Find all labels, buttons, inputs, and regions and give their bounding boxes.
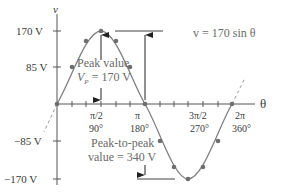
peak-value-number: = 170 V <box>89 70 131 84</box>
x-tick-270deg: 270° <box>190 123 209 134</box>
peak-value-title: Peak value <box>77 58 129 69</box>
y-tick-85: 85 V <box>26 62 48 73</box>
dashed-extension-right <box>232 78 245 104</box>
x-tick-pi-half: π/2 <box>90 110 103 121</box>
p2p-line2: value = 340 V <box>88 152 156 163</box>
y-tick-neg170: −170 V <box>4 174 37 185</box>
peak-value-formula: VP = 170 V <box>77 72 131 88</box>
dashed-extension-left <box>44 104 57 132</box>
x-tick-3pi-half: 3π/2 <box>189 110 207 121</box>
x-axis-label: θ <box>260 98 266 109</box>
x-tick-360deg: 360° <box>232 123 251 134</box>
p2p-line1: Peak-to-peak <box>91 138 154 149</box>
y-axis-label: v <box>53 4 58 15</box>
y-tick-neg85: −85 V <box>14 136 42 147</box>
x-tick-2pi: 2π <box>235 110 245 121</box>
x-tick-180deg: 180° <box>130 123 149 134</box>
x-tick-pi: π <box>135 110 140 121</box>
x-tick-90deg: 90° <box>89 123 103 134</box>
equation-label: v = 170 sin θ <box>193 28 256 39</box>
y-tick-170: 170 V <box>16 26 43 37</box>
sine-wave-diagram: v θ 170 V 85 V −85 V −170 V π/2 90° π 18… <box>0 0 281 193</box>
